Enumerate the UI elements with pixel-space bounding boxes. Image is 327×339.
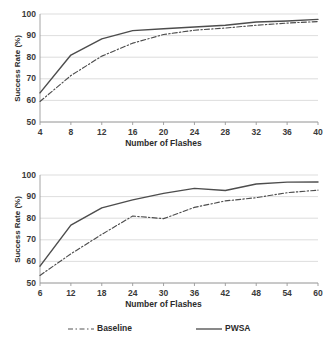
x-tick-label: 36 — [276, 127, 298, 137]
legend-label-baseline: Baseline — [97, 323, 132, 333]
figure-container: Success Rate (%) 100 90 80 70 60 50 4 8 … — [0, 0, 327, 339]
x-tick-label: 42 — [214, 288, 236, 298]
x-tick-label: 6 — [29, 288, 51, 298]
x-axis-title-bottom: Number of Flashes — [0, 299, 327, 309]
x-tick-label: 40 — [307, 127, 327, 137]
x-tick-label: 16 — [122, 127, 144, 137]
x-tick-label: 8 — [60, 127, 82, 137]
chart-panel-bottom: Success Rate (%) 100 90 80 70 60 50 6 12… — [0, 163, 327, 313]
x-tick-label: 24 — [183, 127, 205, 137]
chart-legend: Baseline PWSA — [0, 320, 327, 336]
x-tick-label: 12 — [91, 127, 113, 137]
x-tick-label: 48 — [245, 288, 267, 298]
x-tick-label: 54 — [276, 288, 298, 298]
x-tick-label: 4 — [29, 127, 51, 137]
x-tick-label: 18 — [91, 288, 113, 298]
legend-label-pwsa: PWSA — [225, 323, 251, 333]
legend-item-baseline: Baseline — [68, 322, 132, 333]
x-axis-title-top: Number of Flashes — [0, 138, 327, 148]
chart-panel-top: Success Rate (%) 100 90 80 70 60 50 4 8 … — [0, 0, 327, 163]
x-tick-label: 28 — [214, 127, 236, 137]
x-tick-label: 12 — [60, 288, 82, 298]
x-tick-label: 60 — [307, 288, 327, 298]
legend-swatch-dashdot-icon — [68, 324, 94, 330]
x-tick-label: 32 — [245, 127, 267, 137]
legend-swatch-solid-icon — [196, 324, 222, 330]
x-tick-label: 20 — [153, 127, 175, 137]
x-tick-label: 24 — [122, 288, 144, 298]
legend-item-pwsa: PWSA — [196, 322, 251, 333]
x-tick-label: 36 — [183, 288, 205, 298]
x-tick-label: 30 — [153, 288, 175, 298]
